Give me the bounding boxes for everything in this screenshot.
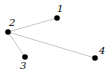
node-2	[5, 29, 11, 35]
graph-diagram: 1234	[0, 0, 106, 73]
node-label-3: 3	[20, 60, 26, 71]
edges-group	[8, 18, 95, 58]
node-label-1: 1	[57, 3, 63, 14]
node-label-2: 2	[8, 17, 15, 28]
node-3	[22, 54, 28, 60]
edge-2-3	[8, 32, 25, 57]
edge-2-4	[8, 32, 95, 58]
node-4	[92, 55, 98, 61]
node-label-4: 4	[98, 45, 105, 56]
nodes-group	[5, 15, 98, 61]
labels-group: 1234	[8, 3, 105, 71]
node-1	[54, 15, 60, 21]
